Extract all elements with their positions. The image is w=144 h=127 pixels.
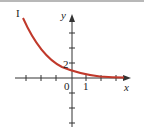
y-axis-label: y <box>60 9 66 21</box>
origin-label: 0 <box>64 80 70 92</box>
exponential-graph: I y 2 0 1 x <box>0 0 144 127</box>
x-axis-label: x <box>123 81 129 93</box>
x-tick-label-1: 1 <box>83 80 89 92</box>
curve-label: I <box>16 7 20 19</box>
y-axis-arrow-icon <box>69 14 75 22</box>
y-intercept-label: 2 <box>63 58 69 70</box>
